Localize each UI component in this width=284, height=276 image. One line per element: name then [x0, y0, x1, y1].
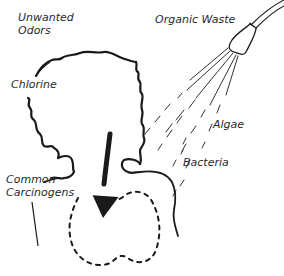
label-common-carcinogens: Common Carcinogens	[6, 173, 74, 199]
shower-hose-icon	[250, 0, 284, 29]
shower-contaminants-illustration: Unwanted Odors Organic Waste Chlorine Al…	[0, 0, 284, 276]
label-algae: Algae	[213, 118, 244, 131]
label-unwanted-odors: Unwanted Odors	[18, 11, 74, 37]
hair-stroke	[36, 62, 50, 76]
dashed-organ-outline	[70, 192, 160, 265]
arrow-down-icon	[91, 134, 118, 219]
label-bacteria: Bacteria	[183, 156, 229, 169]
label-chlorine: Chlorine	[11, 78, 57, 91]
label-unwanted-odors-line1: Unwanted	[18, 11, 74, 24]
label-organic-waste: Organic Waste	[155, 13, 235, 26]
label-common-carcinogens-line2: Carcinogens	[6, 186, 74, 199]
carcinogens-leader-line	[32, 202, 38, 246]
label-unwanted-odors-line2: Odors	[18, 24, 74, 37]
shower-head-icon	[229, 24, 256, 54]
label-common-carcinogens-line1: Common	[6, 173, 74, 186]
line-art	[0, 0, 284, 276]
